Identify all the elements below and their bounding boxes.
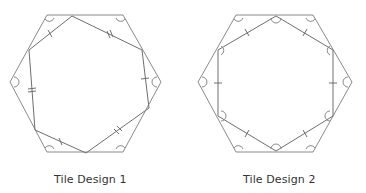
tick-marks-1 bbox=[28, 30, 149, 145]
tile-diagrams bbox=[0, 0, 366, 193]
tile-design-1-label: Tile Design 1 bbox=[54, 173, 127, 186]
tick-marks-2 bbox=[214, 29, 337, 137]
tile-design-2 bbox=[198, 15, 352, 152]
tile-design-2-label: Tile Design 2 bbox=[243, 173, 316, 186]
outer-hexagon-1 bbox=[10, 15, 161, 152]
tile-design-1 bbox=[10, 15, 161, 153]
inner-polygon-1 bbox=[29, 16, 149, 153]
inner-polygon-2 bbox=[218, 16, 333, 151]
